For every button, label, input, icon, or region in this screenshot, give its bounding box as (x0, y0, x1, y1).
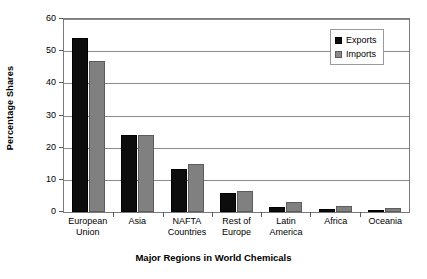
bar-group (64, 19, 113, 212)
category-label-line: Africa (311, 216, 361, 227)
legend-swatch-imports (335, 51, 342, 58)
category-label-line: Countries (162, 227, 212, 238)
bar-imports (237, 191, 253, 212)
x-axis-category-label: EuropeanUnion (63, 216, 113, 238)
x-axis-category-label: Africa (311, 216, 361, 238)
bar-imports (138, 135, 154, 212)
category-label-line: Rest of (212, 216, 262, 227)
x-axis-category-label: Rest ofEurope (212, 216, 262, 238)
y-axis-tick-label: 20 (26, 142, 56, 152)
category-label-line: Europe (212, 227, 262, 238)
x-axis-category-label: Asia (113, 216, 163, 238)
bar-imports (336, 206, 352, 212)
y-axis-tick-label: 40 (26, 77, 56, 87)
legend-label-imports: Imports (346, 49, 376, 59)
y-axis-tick-label: 10 (26, 174, 56, 184)
category-label-line: European (63, 216, 113, 227)
bar-imports (89, 61, 105, 212)
legend-item-imports: Imports (335, 47, 377, 61)
legend-item-exports: Exports (335, 33, 377, 47)
category-label-line: Oceania (360, 216, 410, 227)
bar-exports (171, 169, 187, 212)
category-label-line: NAFTA (162, 216, 212, 227)
bar-exports (220, 193, 236, 212)
bar-exports (269, 207, 285, 212)
bar-group (212, 19, 261, 212)
y-axis-title-label: Percentage Shares (5, 65, 15, 149)
bar-imports (188, 164, 204, 212)
x-axis-category-label: NAFTACountries (162, 216, 212, 238)
x-axis-title: Major Regions in World Chemicals (0, 252, 427, 263)
category-label-line: Union (63, 227, 113, 238)
legend: Exports Imports (330, 29, 384, 65)
category-label-line: Asia (113, 216, 163, 227)
bar-chart: Percentage Shares 0102030405060 European… (0, 0, 427, 279)
bar-group (113, 19, 162, 212)
category-label-line: America (261, 227, 311, 238)
bar-group (261, 19, 310, 212)
bar-exports (319, 209, 335, 212)
y-axis-tick-label: 30 (26, 110, 56, 120)
category-label-line: Latin (261, 216, 311, 227)
bar-imports (286, 202, 302, 212)
x-axis-category-label: Oceania (360, 216, 410, 238)
bar-imports (385, 208, 401, 212)
bar-group (163, 19, 212, 212)
bar-exports (72, 38, 88, 212)
y-axis-tick-label: 0 (26, 206, 56, 216)
y-axis-tick-label: 50 (26, 45, 56, 55)
x-axis-category-labels: EuropeanUnionAsiaNAFTACountriesRest ofEu… (63, 216, 410, 238)
bar-exports (368, 210, 384, 212)
y-axis-tick-label: 60 (26, 13, 56, 23)
legend-swatch-exports (335, 37, 342, 44)
legend-label-exports: Exports (346, 35, 377, 45)
x-axis-category-label: LatinAmerica (261, 216, 311, 238)
y-axis-title: Percentage Shares (2, 0, 18, 215)
bar-exports (121, 135, 137, 212)
